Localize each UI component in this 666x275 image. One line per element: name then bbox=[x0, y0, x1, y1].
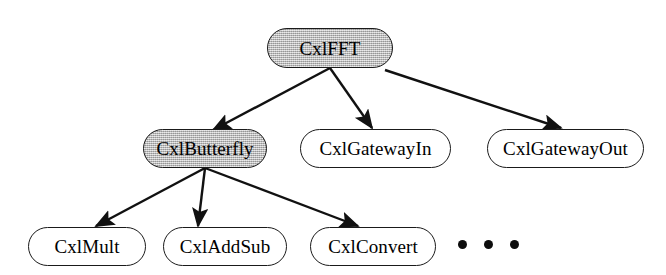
edge-fft-gatewayout bbox=[385, 70, 561, 128]
class-hierarchy-diagram: CxlFFT CxlButterfly CxlGatewayIn CxlGate… bbox=[0, 0, 666, 275]
node-label-cxlfft: CxlFFT bbox=[300, 39, 361, 58]
node-label-cxladdsub: CxlAddSub bbox=[180, 237, 271, 256]
node-cxladdsub[interactable]: CxlAddSub bbox=[163, 227, 287, 266]
node-cxlconvert[interactable]: CxlConvert bbox=[310, 227, 436, 266]
node-label-cxlgatewayin: CxlGatewayIn bbox=[320, 139, 432, 158]
ellipsis-dot bbox=[458, 240, 467, 249]
node-cxlgatewayout[interactable]: CxlGatewayOut bbox=[487, 129, 644, 168]
edge-butterfly-addsub bbox=[198, 168, 205, 226]
node-label-cxlmult: CxlMult bbox=[54, 237, 119, 256]
edge-butterfly-mult bbox=[96, 168, 205, 226]
ellipsis-more-subclasses bbox=[458, 240, 519, 249]
ellipsis-dot bbox=[484, 240, 493, 249]
node-label-cxlconvert: CxlConvert bbox=[328, 237, 418, 256]
node-cxlbutterfly[interactable]: CxlButterfly bbox=[143, 129, 267, 168]
node-cxlgatewayin[interactable]: CxlGatewayIn bbox=[300, 129, 451, 168]
edge-fft-gatewayin bbox=[330, 68, 372, 128]
node-cxlmult[interactable]: CxlMult bbox=[28, 227, 146, 266]
node-label-cxlbutterfly: CxlButterfly bbox=[156, 139, 253, 158]
edge-butterfly-convert bbox=[205, 168, 358, 226]
node-cxlfft[interactable]: CxlFFT bbox=[267, 28, 393, 68]
ellipsis-dot bbox=[510, 240, 519, 249]
edge-fft-butterfly bbox=[213, 68, 330, 130]
node-label-cxlgatewayout: CxlGatewayOut bbox=[503, 139, 628, 158]
